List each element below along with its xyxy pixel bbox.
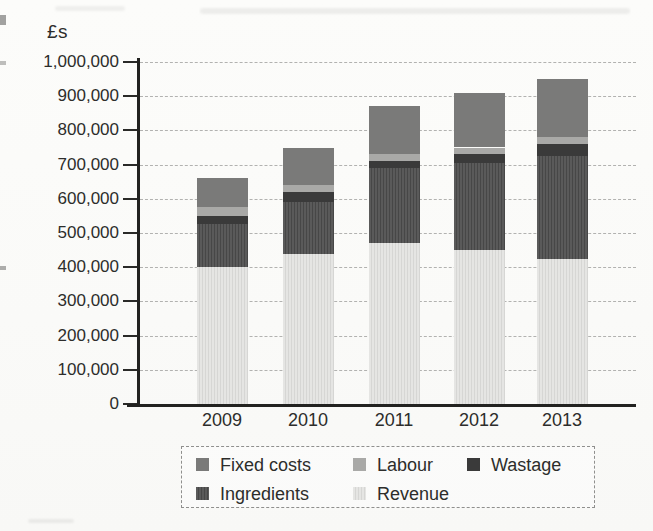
legend-label-fixed-costs: Fixed costs [220, 456, 311, 475]
y-tick-label: 500,000 [9, 222, 119, 244]
bar-segment-2011-labour [369, 154, 420, 161]
legend-label-ingredients: Ingredients [220, 485, 309, 504]
y-axis-tick [123, 198, 137, 200]
bar-segment-2013-fixed-costs [537, 79, 588, 137]
x-axis-label-2009: 2009 [180, 410, 264, 430]
bar-segment-2009-ingredients [197, 224, 248, 267]
y-axis-tick [123, 129, 137, 131]
bar-segment-2013-wastage [537, 144, 588, 156]
bar-segment-2012-labour [454, 148, 505, 155]
bar-segment-2010-labour [283, 185, 334, 192]
y-axis-tick [123, 369, 137, 371]
bar-segment-2010-wastage [283, 192, 334, 202]
y-gridline [140, 62, 636, 63]
chart-legend: Fixed costsLabourWastageIngredientsReven… [181, 446, 595, 508]
y-axis-tick [123, 61, 137, 63]
y-tick-label: 600,000 [9, 188, 119, 210]
legend-label-wastage: Wastage [491, 456, 561, 475]
bar-segment-2011-wastage [369, 161, 420, 168]
scan-mark [0, 266, 6, 270]
y-tick-label: 100,000 [9, 359, 119, 381]
scan-mark [0, 15, 6, 25]
bar-segment-2009-labour [197, 207, 248, 216]
legend-swatch-labour [353, 458, 366, 471]
bar-segment-2010-fixed-costs [283, 148, 334, 186]
x-axis-label-2010: 2010 [266, 410, 350, 430]
y-tick-label: 400,000 [9, 256, 119, 278]
y-axis-line [137, 58, 140, 407]
y-tick-label: 1,000,000 [9, 51, 119, 73]
bar-segment-2011-ingredients [369, 168, 420, 243]
y-axis-tick [123, 95, 137, 97]
bar-segment-2012-wastage [454, 154, 505, 163]
bar-segment-2010-revenue [283, 254, 334, 404]
y-axis-tick [123, 232, 137, 234]
y-axis-unit-label: £s [47, 21, 68, 43]
bar-segment-2009-revenue [197, 267, 248, 404]
scan-mark [0, 61, 6, 65]
bar-segment-2011-revenue [369, 243, 420, 404]
y-tick-label: 800,000 [9, 119, 119, 141]
y-axis-tick [123, 164, 137, 166]
bar-segment-2011-fixed-costs [369, 106, 420, 154]
x-axis-label-2013: 2013 [520, 410, 604, 430]
scan-smudge [55, 6, 125, 11]
bar-segment-2012-revenue [454, 250, 505, 404]
scan-smudge [200, 8, 630, 14]
bar-segment-2012-ingredients [454, 163, 505, 250]
y-axis-tick [123, 300, 137, 302]
legend-swatch-fixed-costs [196, 458, 209, 471]
legend-label-labour: Labour [377, 456, 433, 475]
y-tick-label: 700,000 [9, 154, 119, 176]
bar-segment-2010-ingredients [283, 202, 334, 253]
legend-label-revenue: Revenue [377, 485, 449, 504]
bar-segment-2013-revenue [537, 259, 588, 404]
y-tick-label: 0 [9, 393, 119, 415]
bar-segment-2013-ingredients [537, 156, 588, 259]
y-tick-label: 300,000 [9, 290, 119, 312]
bar-segment-2009-wastage [197, 216, 248, 225]
y-axis-tick [123, 335, 137, 337]
legend-swatch-wastage [467, 458, 480, 471]
x-axis-label-2011: 2011 [352, 410, 436, 430]
x-axis-label-2012: 2012 [437, 410, 521, 430]
y-tick-label: 200,000 [9, 325, 119, 347]
bar-segment-2009-fixed-costs [197, 178, 248, 207]
scan-mark [28, 519, 74, 523]
bar-segment-2012-fixed-costs [454, 93, 505, 148]
y-axis-tick [123, 266, 137, 268]
x-axis-line [127, 404, 636, 407]
legend-swatch-ingredients [196, 487, 209, 500]
legend-swatch-revenue [353, 487, 366, 500]
bar-segment-2013-labour [537, 137, 588, 144]
scan-page: £s Fixed costsLabourWastageIngredientsRe… [0, 0, 653, 531]
y-tick-label: 900,000 [9, 85, 119, 107]
